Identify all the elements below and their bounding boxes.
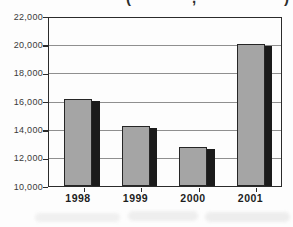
bar-2001 <box>237 44 265 186</box>
y-axis-tick <box>43 187 48 188</box>
y-axis-tick <box>43 159 48 160</box>
y-axis-tick <box>43 17 48 18</box>
y-axis-label: 16,000 <box>0 97 43 108</box>
bar-shadow-2001 <box>265 46 273 186</box>
x-axis-tick <box>84 188 85 192</box>
x-axis-label-2000: 2000 <box>171 192 215 204</box>
y-axis-label: 14,000 <box>0 125 43 136</box>
x-axis-label-2001: 2001 <box>229 192 273 204</box>
bar-1999 <box>122 126 150 186</box>
x-axis-tick <box>141 188 142 192</box>
x-axis-label-1998: 1998 <box>56 192 100 204</box>
y-axis-label: 18,000 <box>0 68 43 79</box>
clipped-caption: (,) <box>0 0 293 6</box>
bar-chart-figure: (,) 10,00012,00014,00016,00018,00020,000… <box>0 0 293 227</box>
y-axis-tick <box>43 74 48 75</box>
bar-shadow-1999 <box>150 128 158 186</box>
y-axis-tick <box>43 130 48 131</box>
x-axis-tick <box>199 188 200 192</box>
clipped-caption-fragment: ) <box>284 0 289 6</box>
x-axis-tick <box>256 188 257 192</box>
y-axis-label: 20,000 <box>0 40 43 51</box>
page-bleed-artifact <box>0 209 293 225</box>
bar-2000 <box>179 147 207 185</box>
bar-1998 <box>64 99 92 186</box>
y-axis-tick <box>43 102 48 103</box>
y-axis-label: 10,000 <box>0 182 43 193</box>
clipped-caption-fragment: ( <box>126 0 131 6</box>
bleed-smudge <box>205 212 290 222</box>
x-axis-label-1999: 1999 <box>114 192 158 204</box>
bar-shadow-1998 <box>92 101 100 186</box>
y-axis-label: 22,000 <box>0 12 43 23</box>
bleed-smudge <box>35 213 120 222</box>
bleed-smudge <box>128 211 198 221</box>
y-axis-tick <box>43 45 48 46</box>
y-axis-label: 12,000 <box>0 153 43 164</box>
bar-shadow-2000 <box>207 149 215 185</box>
clipped-caption-fragment: , <box>192 0 196 6</box>
